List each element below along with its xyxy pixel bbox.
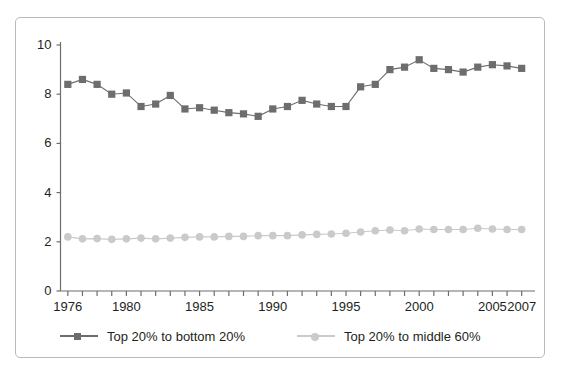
x-tick-label: 1985 [177,299,223,314]
legend-entry-top20-middle60: Top 20% to middle 60% [297,329,481,344]
plot-area: 0246810 19761980198519901995200020052007 [16,18,546,359]
x-tick-label: 1976 [45,299,91,314]
x-tick-label: 2000 [396,299,442,314]
legend-swatch-square-icon [60,330,98,342]
y-tick-label: 0 [26,283,52,298]
chart-figure: 0246810 19761980198519901995200020052007… [15,17,545,358]
chart-legend: Top 20% to bottom 20% Top 20% to middle … [16,321,546,351]
x-tick-label: 1990 [250,299,296,314]
y-tick-label: 2 [26,234,52,249]
data-series-group [64,56,525,243]
y-tick-label: 8 [26,86,52,101]
axes [57,42,536,296]
legend-label-1: Top 20% to bottom 20% [107,329,245,344]
x-tick-label: 1995 [323,299,369,314]
y-tick-label: 4 [26,185,52,200]
legend-swatch-circle-icon [297,330,335,342]
legend-entry-top20-bottom20: Top 20% to bottom 20% [60,329,245,344]
legend-marker-circle-icon [311,333,319,341]
x-tick-label: 1980 [103,299,149,314]
legend-label-2: Top 20% to middle 60% [344,329,481,344]
y-tick-label: 10 [26,37,52,52]
y-tick-label: 6 [26,135,52,150]
legend-marker-square-icon [74,333,81,340]
x-tick-label: 2007 [499,299,545,314]
